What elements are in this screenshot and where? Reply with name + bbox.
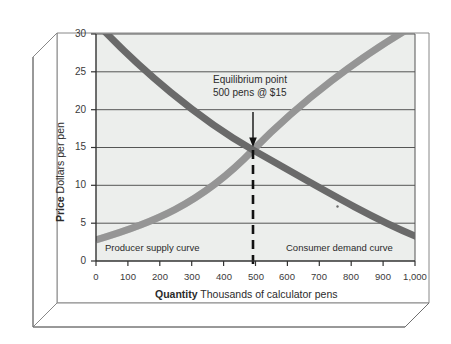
x-axis-title-rest: Thousands of calculator pens <box>200 288 337 300</box>
x-tick-500: 500 <box>242 271 270 282</box>
y-tick-10: 10 <box>66 179 86 190</box>
x-axis-title-bold: Quantity <box>155 288 198 300</box>
y-tick-30: 30 <box>66 28 86 39</box>
y-tick-15: 15 <box>66 141 86 152</box>
supply-curve-label: Producer supply curve <box>105 242 200 253</box>
equilibrium-annotation: Equilibrium point 500 pens @ $15 <box>213 74 287 99</box>
x-tick-300: 300 <box>178 271 206 282</box>
y-tick-20: 20 <box>66 104 86 115</box>
x-tick-800: 800 <box>337 271 365 282</box>
y-tick-5: 5 <box>66 217 86 228</box>
equilibrium-annotation-line1: Equilibrium point <box>213 74 287 87</box>
x-tick-400: 400 <box>210 271 238 282</box>
x-tick-200: 200 <box>146 271 174 282</box>
x-tick-100: 100 <box>114 271 142 282</box>
x-tick-0: 0 <box>82 271 110 282</box>
speck-artifact <box>336 205 338 207</box>
x-tick-700: 700 <box>305 271 333 282</box>
y-axis-title: Price Dollars per pen <box>54 122 66 222</box>
x-tick-900: 900 <box>369 271 397 282</box>
y-axis-title-rest: Dollars per pen <box>54 122 66 193</box>
x-tick-600: 600 <box>273 271 301 282</box>
supply-demand-figure: 30 25 20 15 10 5 0 0 100 200 300 400 500… <box>0 0 451 344</box>
demand-curve-label: Consumer demand curve <box>286 242 393 253</box>
y-tick-0: 0 <box>66 255 86 266</box>
frame-bottom-bevel <box>33 303 429 327</box>
x-tick-1000: 1,000 <box>400 271 430 282</box>
x-axis-title: Quantity Thousands of calculator pens <box>155 288 338 300</box>
equilibrium-annotation-line2: 500 pens @ $15 <box>213 87 287 100</box>
y-tick-25: 25 <box>66 66 86 77</box>
y-axis-title-bold: Price <box>54 196 66 222</box>
